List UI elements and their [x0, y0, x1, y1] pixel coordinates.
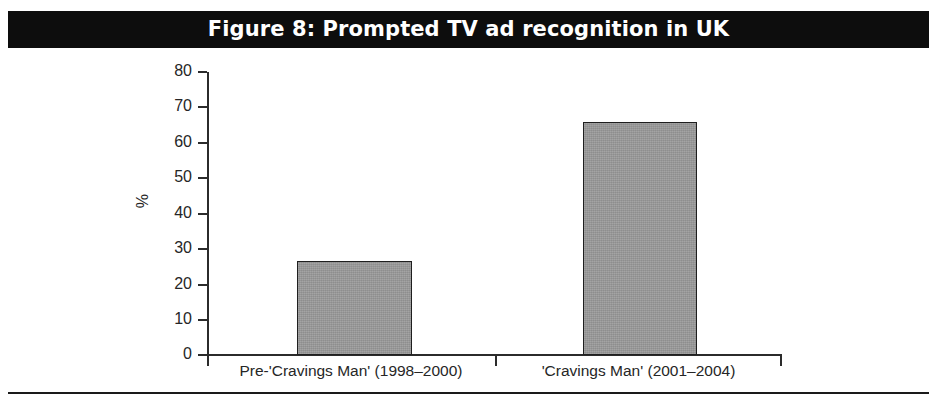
bar-cravings-man[interactable] — [583, 122, 697, 355]
y-tick-label-10: 10 — [152, 310, 192, 328]
y-tick-10 — [198, 319, 207, 321]
x-label-pre-cravings-man: Pre-'Cravings Man' (1998–2000) — [207, 362, 495, 380]
y-tick-label-80: 80 — [152, 62, 192, 80]
y-tick-70 — [198, 106, 207, 108]
y-axis-line — [207, 72, 209, 356]
y-tick-0 — [198, 354, 207, 356]
bar-pre-cravings-man[interactable] — [297, 261, 412, 355]
y-tick-label-0: 0 — [152, 345, 192, 363]
y-tick-40 — [198, 213, 207, 215]
y-tick-label-40: 40 — [152, 204, 192, 222]
figure-container: Figure 8: Prompted TV ad recognition in … — [0, 0, 929, 408]
y-tick-60 — [198, 142, 207, 144]
y-tick-label-50: 50 — [152, 168, 192, 186]
y-tick-80 — [198, 71, 207, 73]
y-tick-label-30: 30 — [152, 239, 192, 257]
footer-divider — [8, 392, 929, 394]
y-tick-50 — [198, 177, 207, 179]
y-tick-20 — [198, 284, 207, 286]
y-tick-label-60: 60 — [152, 133, 192, 151]
y-tick-label-20: 20 — [152, 275, 192, 293]
x-label-cravings-man: 'Cravings Man' (2001–2004) — [495, 362, 782, 380]
bar-chart-plot: 80 70 60 50 40 30 20 10 0 % Pre-'Craving… — [0, 0, 929, 408]
y-axis-title: % — [134, 184, 152, 218]
y-tick-30 — [198, 248, 207, 250]
y-tick-label-70: 70 — [152, 97, 192, 115]
